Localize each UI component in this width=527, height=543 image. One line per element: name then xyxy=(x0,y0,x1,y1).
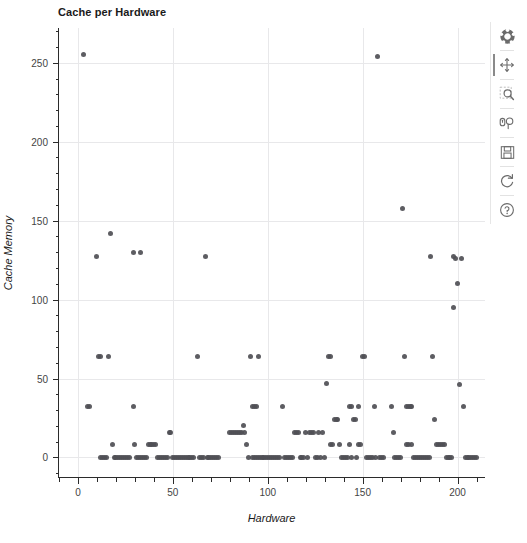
reset-tool-icon[interactable] xyxy=(493,167,521,195)
y-axis-title: Cache Memory xyxy=(0,28,16,478)
scatter-points-layer xyxy=(59,28,485,477)
scatter-point xyxy=(248,354,253,359)
scatter-point xyxy=(168,430,173,435)
scatter-point xyxy=(455,281,460,286)
x-axis-minor-tick xyxy=(325,478,326,482)
scatter-point xyxy=(453,256,458,261)
y-axis-minor-tick xyxy=(56,94,60,95)
y-axis-minor-tick xyxy=(56,394,60,395)
y-axis-tick xyxy=(53,221,59,222)
y-axis-tick-label: 250 xyxy=(31,57,48,68)
scatter-point xyxy=(362,354,367,359)
scatter-point xyxy=(349,404,354,409)
help-tool-icon[interactable] xyxy=(493,196,521,224)
x-axis-minor-tick xyxy=(97,478,98,482)
scatter-point xyxy=(432,417,437,422)
x-axis-tick xyxy=(363,478,364,484)
scatter-point xyxy=(349,455,354,460)
scatter-point xyxy=(203,254,208,259)
scatter-point xyxy=(127,455,132,460)
scatter-point xyxy=(427,455,432,460)
scatter-point xyxy=(400,206,405,211)
y-axis-tick-label: 100 xyxy=(31,294,48,305)
scatter-point xyxy=(311,430,316,435)
scatter-point xyxy=(337,442,342,447)
x-axis-minor-tick xyxy=(382,478,383,482)
y-axis-tick xyxy=(53,63,59,64)
y-axis-tick xyxy=(53,142,59,143)
x-axis-minor-tick xyxy=(249,478,250,482)
y-axis-minor-tick xyxy=(56,189,60,190)
box-zoom-tool-icon[interactable] xyxy=(493,80,521,108)
scatter-point xyxy=(216,455,221,460)
x-axis-minor-tick xyxy=(230,478,231,482)
save-tool-icon[interactable] xyxy=(493,138,521,166)
scatter-point xyxy=(372,404,377,409)
x-axis-minor-tick xyxy=(135,478,136,482)
y-axis-minor-tick xyxy=(56,268,60,269)
scatter-point xyxy=(409,442,414,447)
bokeh-logo-icon[interactable] xyxy=(493,22,521,50)
scatter-point xyxy=(280,404,285,409)
scatter-point xyxy=(330,442,335,447)
scatter-point xyxy=(451,305,456,310)
scatter-point xyxy=(195,354,200,359)
scatter-point xyxy=(131,250,136,255)
x-axis-tick-label: 200 xyxy=(449,487,466,498)
scatter-point xyxy=(356,404,361,409)
x-axis-tick-label: 50 xyxy=(167,487,178,498)
scatter-point xyxy=(87,404,92,409)
scatter-point xyxy=(165,455,170,460)
scatter-point xyxy=(322,455,327,460)
x-axis-minor-tick xyxy=(192,478,193,482)
scatter-point xyxy=(305,455,310,460)
scatter-point xyxy=(335,417,340,422)
y-axis-minor-tick xyxy=(56,426,60,427)
y-axis-tick-label: 200 xyxy=(31,136,48,147)
y-axis-tick-label: 50 xyxy=(37,373,48,384)
wheel-zoom-tool-icon[interactable] xyxy=(493,109,521,137)
y-axis-minor-tick xyxy=(56,363,60,364)
x-axis-minor-tick xyxy=(59,478,60,482)
plot-frame[interactable]: 050100150200050100150200250 xyxy=(58,28,485,478)
x-axis-tick-label: 150 xyxy=(354,487,371,498)
scatter-point xyxy=(375,54,380,59)
scatter-point xyxy=(398,455,403,460)
y-axis-tick xyxy=(53,379,59,380)
scatter-point xyxy=(132,442,137,447)
y-axis-minor-tick xyxy=(56,110,60,111)
scatter-point xyxy=(241,423,246,428)
y-axis-title-text: Cache Memory xyxy=(2,216,14,291)
scatter-point xyxy=(256,354,261,359)
scatter-point xyxy=(94,254,99,259)
scatter-point xyxy=(358,442,363,447)
y-axis-minor-tick xyxy=(56,47,60,48)
scatter-point xyxy=(138,250,143,255)
x-axis-tick xyxy=(173,478,174,484)
x-axis-title: Hardware xyxy=(58,512,485,524)
scatter-point xyxy=(430,354,435,359)
scatter-point xyxy=(391,430,396,435)
y-axis-minor-tick xyxy=(56,410,60,411)
scatter-point xyxy=(324,381,329,386)
scatter-point xyxy=(449,455,454,460)
y-axis-minor-tick xyxy=(56,252,60,253)
scatter-point xyxy=(457,382,462,387)
y-axis-minor-tick xyxy=(56,442,60,443)
scatter-point xyxy=(402,354,407,359)
scatter-point xyxy=(409,404,414,409)
scatter-point xyxy=(81,52,86,57)
x-axis-minor-tick xyxy=(154,478,155,482)
pan-tool-icon[interactable] xyxy=(493,51,521,79)
scatter-point xyxy=(474,455,479,460)
scatter-point xyxy=(131,404,136,409)
scatter-point xyxy=(110,442,115,447)
scatter-point xyxy=(98,354,103,359)
x-axis-minor-tick xyxy=(211,478,212,482)
x-axis-minor-tick xyxy=(477,478,478,482)
active-tool-indicator xyxy=(493,54,495,76)
y-axis-minor-tick xyxy=(56,31,60,32)
scatter-point xyxy=(442,442,447,447)
plot-toolbar[interactable] xyxy=(490,22,523,224)
y-axis-minor-tick xyxy=(56,331,60,332)
